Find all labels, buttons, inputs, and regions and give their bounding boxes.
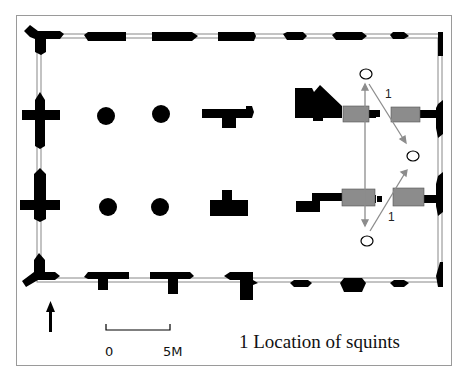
north-arrow-icon xyxy=(46,301,55,332)
scale-bar xyxy=(106,324,170,330)
floor-plan: 1 1 N 0 5M 1 Location of squints xyxy=(0,0,465,380)
squint-label-north: 1 xyxy=(385,87,392,101)
outer-walls xyxy=(37,34,442,282)
wall-buttresses xyxy=(20,25,443,300)
scale-end-label: 5M xyxy=(163,344,183,359)
scale-start-label: 0 xyxy=(105,344,113,359)
legend-text: 1 Location of squints xyxy=(239,331,400,352)
squint-label-south: 1 xyxy=(388,210,395,224)
nave-piers xyxy=(97,85,438,216)
